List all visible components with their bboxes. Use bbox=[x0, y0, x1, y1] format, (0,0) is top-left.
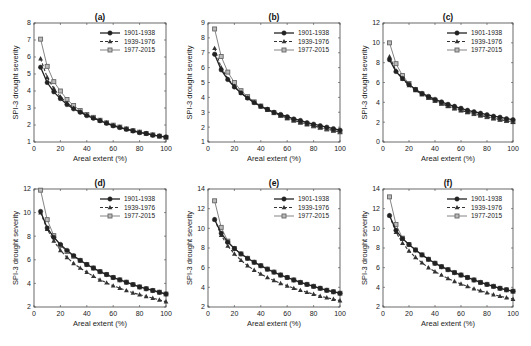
series-1939-1976 bbox=[38, 56, 168, 139]
x-tick-label: 20 bbox=[57, 145, 65, 152]
x-tick-label: 20 bbox=[231, 145, 239, 152]
y-tick-label: 4 bbox=[201, 94, 205, 101]
y-tick-label: 8 bbox=[376, 59, 380, 66]
panel-title: (a) bbox=[95, 12, 106, 22]
y-tick-label: 12 bbox=[23, 185, 31, 192]
legend: 1901-19381939-19761977-2015 bbox=[274, 29, 329, 53]
y-tick-label: 10 bbox=[197, 225, 205, 232]
y-tick-label: 12 bbox=[372, 19, 380, 26]
x-tick-label: 60 bbox=[457, 145, 465, 152]
y-tick-label: 10 bbox=[372, 39, 380, 46]
y-tick-label: 8 bbox=[201, 244, 205, 251]
x-tick-label: 40 bbox=[83, 145, 91, 152]
legend: 1901-19381939-19761977-2015 bbox=[447, 195, 502, 219]
x-tick-label: 100 bbox=[160, 310, 172, 317]
x-axis-label: Areal extent (%) bbox=[247, 319, 301, 328]
legend-label: 1939-1976 bbox=[124, 38, 155, 45]
chart-panel-b: 020406080100123456789(b)Areal extent (%)… bbox=[185, 12, 346, 163]
chart-panel-f: 0204060801002468101214(f)Areal extent (%… bbox=[360, 178, 519, 328]
legend-label: 1977-2015 bbox=[298, 212, 329, 219]
legend-label: 1939-1976 bbox=[471, 204, 502, 211]
y-tick-label: 6 bbox=[27, 256, 31, 263]
y-tick-label: 4 bbox=[376, 284, 380, 291]
series-1901-1938 bbox=[387, 57, 515, 121]
legend: 1901-19381939-19761977-2015 bbox=[447, 29, 502, 53]
chart-panel-e: 0204060801002468101214(e)Areal extent (%… bbox=[185, 178, 346, 328]
y-tick-label: 7 bbox=[201, 49, 205, 56]
panel-title: (e) bbox=[269, 178, 280, 188]
legend-label: 1977-2015 bbox=[471, 46, 502, 53]
y-tick-label: 6 bbox=[201, 264, 205, 271]
x-tick-label: 20 bbox=[405, 310, 413, 317]
x-tick-label: 60 bbox=[283, 310, 291, 317]
y-tick-label: 8 bbox=[376, 244, 380, 251]
chart-panel-a: 02040608010012345678(a)Areal extent (%)S… bbox=[11, 12, 172, 163]
x-tick-label: 20 bbox=[231, 310, 239, 317]
series-1901-1938 bbox=[212, 217, 342, 295]
x-tick-label: 40 bbox=[257, 310, 265, 317]
x-tick-label: 0 bbox=[381, 145, 385, 152]
series-1901-1938 bbox=[387, 213, 515, 293]
x-axis-label: Areal extent (%) bbox=[73, 154, 127, 163]
x-axis-label: Areal extent (%) bbox=[421, 154, 475, 163]
legend: 1901-19381939-19761977-2015 bbox=[100, 29, 155, 53]
y-axis-label: SPI-3 drought severity bbox=[360, 211, 369, 285]
x-tick-label: 0 bbox=[32, 145, 36, 152]
y-tick-label: 3 bbox=[201, 109, 205, 116]
x-axis-label: Areal extent (%) bbox=[421, 319, 475, 328]
legend-label: 1901-1938 bbox=[471, 29, 502, 36]
y-tick-label: 0 bbox=[376, 138, 380, 145]
y-axis-label: SPI-3 drought severity bbox=[185, 211, 194, 285]
y-tick-label: 7 bbox=[27, 36, 31, 43]
x-tick-label: 100 bbox=[334, 310, 346, 317]
x-tick-label: 0 bbox=[206, 145, 210, 152]
legend-label: 1901-1938 bbox=[298, 29, 329, 36]
y-tick-label: 4 bbox=[27, 87, 31, 94]
y-tick-label: 2 bbox=[201, 124, 205, 131]
x-tick-label: 60 bbox=[109, 310, 117, 317]
y-tick-label: 2 bbox=[201, 303, 205, 310]
y-tick-label: 5 bbox=[201, 79, 205, 86]
y-tick-label: 10 bbox=[23, 209, 31, 216]
x-tick-label: 20 bbox=[405, 145, 413, 152]
y-tick-label: 1 bbox=[201, 138, 205, 145]
legend-label: 1901-1938 bbox=[124, 195, 155, 202]
legend-label: 1939-1976 bbox=[471, 38, 502, 45]
y-tick-label: 8 bbox=[27, 233, 31, 240]
x-tick-label: 80 bbox=[310, 145, 318, 152]
y-tick-label: 5 bbox=[27, 70, 31, 77]
legend-label: 1901-1938 bbox=[471, 195, 502, 202]
x-tick-label: 100 bbox=[160, 145, 172, 152]
y-tick-label: 8 bbox=[27, 19, 31, 26]
series-1901-1938 bbox=[212, 52, 342, 132]
y-tick-label: 6 bbox=[376, 79, 380, 86]
y-tick-label: 10 bbox=[372, 225, 380, 232]
y-tick-label: 6 bbox=[376, 264, 380, 271]
x-tick-label: 80 bbox=[136, 145, 144, 152]
legend-label: 1939-1976 bbox=[298, 38, 329, 45]
legend-label: 1977-2015 bbox=[124, 46, 155, 53]
x-tick-label: 0 bbox=[381, 310, 385, 317]
panel-title: (b) bbox=[269, 12, 280, 22]
y-tick-label: 4 bbox=[201, 284, 205, 291]
x-tick-label: 40 bbox=[257, 145, 265, 152]
x-tick-label: 40 bbox=[83, 310, 91, 317]
x-axis-label: Areal extent (%) bbox=[73, 319, 127, 328]
series-1939-1976 bbox=[387, 54, 515, 124]
x-tick-label: 100 bbox=[334, 145, 346, 152]
y-axis-label: SPI-3 drought severity bbox=[360, 45, 369, 119]
y-axis-label: SPI-3 drought severity bbox=[11, 211, 20, 285]
x-tick-label: 40 bbox=[431, 310, 439, 317]
y-tick-label: 12 bbox=[197, 205, 205, 212]
y-tick-label: 14 bbox=[197, 185, 205, 192]
y-tick-label: 4 bbox=[27, 280, 31, 287]
legend: 1901-19381939-19761977-2015 bbox=[100, 195, 155, 219]
y-axis-label: SPI-3 drought severity bbox=[11, 45, 20, 119]
panel-title: (c) bbox=[443, 12, 454, 22]
x-tick-label: 80 bbox=[310, 310, 318, 317]
y-tick-label: 9 bbox=[201, 19, 205, 26]
y-tick-label: 2 bbox=[376, 303, 380, 310]
legend-label: 1977-2015 bbox=[471, 212, 502, 219]
y-tick-label: 14 bbox=[372, 185, 380, 192]
x-tick-label: 80 bbox=[136, 310, 144, 317]
